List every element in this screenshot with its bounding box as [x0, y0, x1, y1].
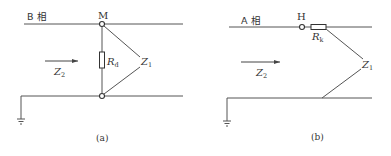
- z1-upper-line: [326, 29, 363, 59]
- z1-label: Z1: [140, 56, 152, 69]
- circuit-diagram: B 相 M Rd Z1 Z2 (a) A 相: [0, 0, 391, 156]
- ground-icon: [17, 119, 25, 124]
- ground-icon: [223, 121, 231, 126]
- z1-label: Z1: [361, 59, 373, 72]
- phase-a-label: A 相: [241, 15, 261, 26]
- z1-upper-line: [104, 26, 140, 57]
- z1-lower-line: [322, 69, 361, 98]
- z1-lower-line: [104, 67, 140, 94]
- resistor-rd-icon: [100, 52, 105, 68]
- node-h-terminal: [300, 25, 305, 30]
- panel-a: B 相 M Rd Z1 Z2 (a): [17, 10, 183, 143]
- resistor-rk-icon: [311, 25, 326, 30]
- z2-label: Z2: [255, 67, 267, 80]
- node-m-terminal: [100, 22, 105, 27]
- z2-label: Z2: [53, 66, 65, 79]
- resistor-rk-label: Rk: [311, 31, 324, 44]
- resistor-rd-label: Rd: [106, 56, 119, 69]
- node-h-label: H: [297, 11, 306, 22]
- node-m-label: M: [98, 10, 108, 21]
- caption-b: (b): [311, 132, 324, 142]
- caption-a: (a): [96, 133, 108, 143]
- phase-b-label: B 相: [27, 11, 47, 22]
- node-ground-terminal: [100, 94, 105, 99]
- panel-b: A 相 H Rk Z1 Z2 (b): [223, 11, 373, 142]
